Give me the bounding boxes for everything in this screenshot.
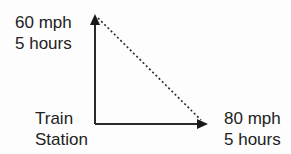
east-duration: 5 hours [224, 129, 281, 150]
east-speed: 80 mph [224, 108, 281, 129]
east-label: 80 mph 5 hours [224, 108, 281, 150]
resultant-dotted-line [98, 18, 201, 120]
north-label: 60 mph 5 hours [15, 12, 72, 54]
north-duration: 5 hours [15, 33, 72, 54]
origin-line1: Train [35, 108, 88, 129]
north-speed: 60 mph [15, 12, 72, 33]
diagram-canvas: 60 mph 5 hours Train Station 80 mph 5 ho… [0, 0, 291, 154]
east-arrowhead-icon [197, 119, 208, 129]
origin-line2: Station [35, 129, 88, 150]
origin-label: Train Station [35, 108, 88, 150]
